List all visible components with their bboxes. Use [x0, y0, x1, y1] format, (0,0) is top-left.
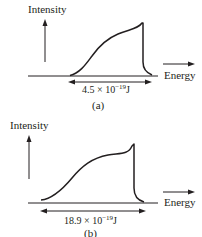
spectrum-panel-a: Intensity Energy 4.5 × 10−19J (a): [0, 0, 202, 118]
energy-axis-arrow-icon: [163, 190, 195, 195]
energy-range-arrow-icon: [40, 209, 146, 214]
y-axis-label-a: Intensity: [28, 3, 67, 15]
caption-a: (a): [92, 99, 104, 111]
spectrum-panel-b: Intensity Energy 18.9 × 10−19J (b): [0, 118, 202, 237]
intensity-axis-arrow-icon: [27, 135, 32, 179]
energy-axis-arrow-icon: [163, 62, 195, 67]
range-exponent-a: −19: [115, 83, 126, 91]
y-axis-label-b: Intensity: [10, 119, 49, 131]
intensity-axis-arrow-icon: [43, 19, 48, 62]
energy-range-label-a: 4.5 × 10−19J: [82, 84, 130, 96]
range-mantissa-a: 4.5 × 10: [82, 84, 115, 95]
range-exponent-b: −19: [102, 214, 113, 222]
range-unit-b: J: [113, 215, 117, 226]
spectrum-curve-a: [70, 23, 152, 76]
spectrum-curve-b: [41, 144, 144, 202]
x-axis-label-a: Energy: [164, 69, 196, 81]
range-mantissa-b: 18.9 × 10: [64, 215, 102, 226]
range-unit-a: J: [126, 84, 130, 95]
caption-b: (b): [84, 227, 97, 237]
x-axis-label-b: Energy: [164, 196, 196, 208]
energy-range-label-b: 18.9 × 10−19J: [64, 215, 117, 227]
